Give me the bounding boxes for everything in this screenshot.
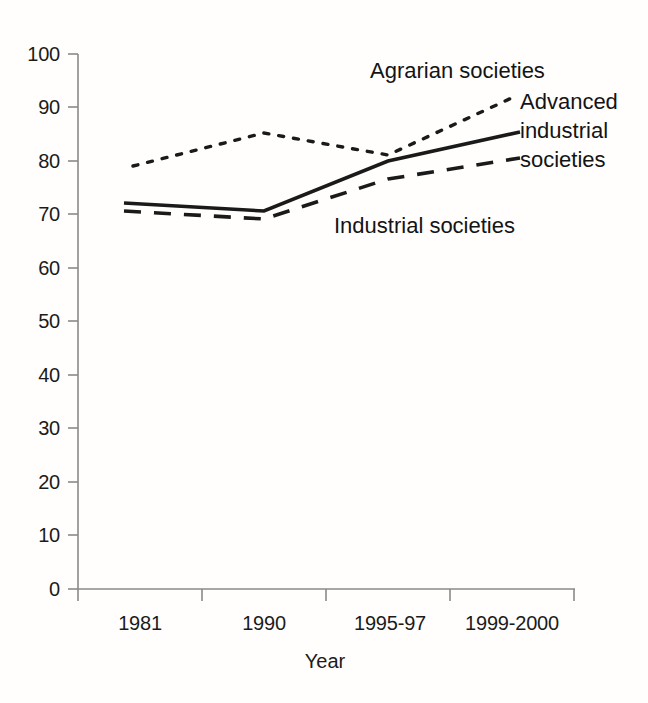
series-label-industrial-societies: Industrial societies [334, 211, 515, 240]
y-axis-ticks [68, 54, 78, 589]
series-label-advanced-line-1: Advanced [520, 89, 618, 114]
series-label-agrarian-societies: Agrarian societies [370, 56, 545, 85]
x-tick-label-1990: 1990 [242, 612, 286, 635]
x-axis-title: Year [305, 650, 345, 673]
x-tick-label-1981: 1981 [118, 612, 162, 635]
series-label-advanced-line-2: industrial [520, 118, 608, 143]
y-tick-label-80: 80 [8, 150, 60, 173]
y-tick-label-0: 0 [8, 578, 60, 601]
y-tick-label-100: 100 [8, 43, 60, 66]
series-label-advanced-line-3: societies [520, 147, 606, 172]
y-tick-label-20: 20 [8, 471, 60, 494]
series-label-advanced-industrial-societies: Advanced industrial societies [520, 87, 644, 174]
y-tick-label-70: 70 [8, 203, 60, 226]
y-tick-label-60: 60 [8, 257, 60, 280]
y-tick-label-90: 90 [8, 96, 60, 119]
series-line-agrarian-societies [133, 96, 516, 166]
x-tick-label-1999-2000: 1999-2000 [465, 612, 559, 635]
y-tick-label-30: 30 [8, 417, 60, 440]
y-tick-label-10: 10 [8, 524, 60, 547]
line-chart: 100 90 80 70 60 50 40 30 20 10 0 1981 19… [0, 0, 648, 703]
y-tick-label-50: 50 [8, 310, 60, 333]
x-tick-label-1995-97: 1995-97 [354, 612, 426, 635]
x-axis-ticks [78, 589, 574, 601]
y-tick-label-40: 40 [8, 364, 60, 387]
